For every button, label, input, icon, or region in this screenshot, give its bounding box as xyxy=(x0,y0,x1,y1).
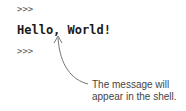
annotation-line-1: The message will xyxy=(92,79,177,91)
annotation-line-2: appear in the shell. xyxy=(92,91,177,103)
callout-annotation: The message will appear in the shell. xyxy=(92,79,177,103)
